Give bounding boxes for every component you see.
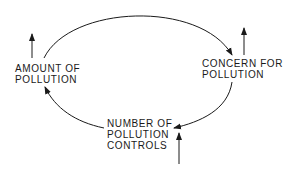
node-line: POLLUTION (107, 129, 172, 140)
node-line: NUMBER OF (107, 118, 172, 129)
node-line: AMOUNT OF (15, 63, 80, 74)
node-line: POLLUTION (202, 69, 283, 80)
arrow-concern-to-controls (174, 82, 232, 128)
node-line: CONTROLS (107, 140, 172, 151)
arrow-amount-to-concern (44, 16, 232, 58)
causal-loop-diagram: AMOUNT OF POLLUTION CONCERN FOR POLLUTIO… (0, 0, 302, 170)
node-number-of-pollution-controls: NUMBER OF POLLUTION CONTROLS (107, 118, 172, 151)
node-line: POLLUTION (15, 74, 80, 85)
node-amount-of-pollution: AMOUNT OF POLLUTION (15, 63, 80, 85)
node-concern-for-pollution: CONCERN FOR POLLUTION (202, 58, 283, 80)
node-line: CONCERN FOR (202, 58, 283, 69)
arrow-controls-to-amount (45, 87, 104, 128)
